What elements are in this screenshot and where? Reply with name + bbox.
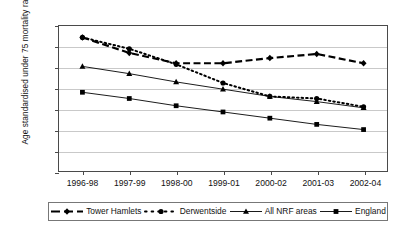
- x-tick-mark: [130, 171, 131, 175]
- legend-label: Tower Hamlets: [86, 207, 141, 216]
- plot-area: 60801001201401601802001996-981997-991998…: [58, 25, 388, 172]
- x-tick-mark: [83, 171, 84, 175]
- legend-swatch-triangle-icon: [229, 206, 263, 217]
- legend-item-all-nrf-areas[interactable]: All NRF areas: [229, 206, 317, 217]
- y-tick-mark: [55, 89, 59, 90]
- data-point-marker: [127, 46, 132, 51]
- legend-item-england[interactable]: England: [319, 206, 386, 217]
- series-derwentside: [80, 35, 366, 110]
- series-line: [82, 37, 363, 106]
- series-line: [82, 37, 363, 63]
- y-tick-mark: [55, 152, 59, 153]
- legend-swatch-circle-icon: [144, 206, 178, 217]
- y-axis-title: Age standardised under 75 mortality rate: [21, 0, 30, 154]
- series-tower-hamlets: [79, 34, 366, 66]
- data-point-marker: [80, 90, 85, 95]
- x-tick-mark: [224, 171, 225, 175]
- x-tick-mark: [271, 171, 272, 175]
- y-tick-mark: [55, 26, 59, 27]
- data-point-marker: [174, 62, 179, 67]
- x-tick-mark: [177, 171, 178, 175]
- x-tick-label: 2002-04: [335, 178, 395, 188]
- legend-label: Derwentside: [180, 207, 227, 216]
- data-point-marker: [158, 209, 163, 214]
- data-point-marker: [79, 63, 85, 68]
- series-layer: [59, 26, 387, 171]
- data-point-marker: [361, 60, 367, 67]
- chart-legend: Tower HamletsDerwentsideAll NRF areasEng…: [48, 202, 388, 221]
- data-point-marker: [267, 116, 272, 121]
- legend-item-derwentside[interactable]: Derwentside: [144, 206, 227, 217]
- data-point-marker: [127, 96, 132, 101]
- legend-swatch-square-icon: [319, 206, 353, 217]
- data-point-marker: [314, 122, 319, 127]
- data-point-marker: [64, 208, 70, 215]
- y-tick-mark: [55, 68, 59, 69]
- data-point-marker: [334, 209, 339, 214]
- series-all-nrf-areas: [79, 63, 366, 110]
- legend-label: All NRF areas: [265, 207, 317, 216]
- y-tick-mark: [55, 110, 59, 111]
- series-england: [80, 90, 366, 132]
- data-point-marker: [361, 127, 366, 132]
- data-point-marker: [314, 51, 320, 58]
- data-point-marker: [267, 55, 273, 62]
- data-point-marker: [174, 103, 179, 108]
- legend-swatch-diamond-icon: [50, 206, 84, 217]
- x-tick-mark: [318, 171, 319, 175]
- data-point-marker: [220, 60, 226, 67]
- data-point-marker: [220, 80, 225, 85]
- data-point-marker: [80, 35, 85, 40]
- data-point-marker: [221, 110, 226, 115]
- x-tick-mark: [365, 171, 366, 175]
- mortality-rate-line-chart: Age standardised under 75 mortality rate…: [0, 0, 400, 235]
- legend-item-tower-hamlets[interactable]: Tower Hamlets: [50, 206, 141, 217]
- legend-label: England: [355, 207, 386, 216]
- y-tick-mark: [55, 131, 59, 132]
- y-tick-mark: [55, 173, 59, 174]
- y-tick-mark: [55, 47, 59, 48]
